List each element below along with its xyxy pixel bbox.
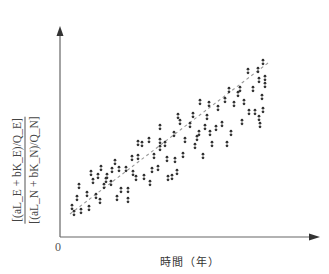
data-point xyxy=(111,170,114,173)
data-point xyxy=(127,197,130,200)
data-point xyxy=(131,155,134,158)
data-point xyxy=(149,180,152,183)
data-point xyxy=(125,169,128,172)
data-point xyxy=(159,145,162,148)
data-point xyxy=(116,195,119,198)
data-point xyxy=(192,115,195,118)
data-point xyxy=(114,159,117,162)
x-axis-arrow-icon xyxy=(309,234,320,241)
data-point xyxy=(164,141,167,144)
data-point xyxy=(97,176,100,179)
data-point xyxy=(159,138,162,141)
data-point xyxy=(148,140,151,143)
data-point xyxy=(259,122,262,125)
data-point xyxy=(204,124,207,127)
y-axis-label: [(aL_E + bK_E)/Q_E] [(aL_N + bK_N)/Q_N] xyxy=(0,90,50,250)
data-point xyxy=(211,141,214,144)
data-point xyxy=(230,133,233,136)
data-point xyxy=(206,117,209,120)
data-point xyxy=(241,122,244,125)
data-point xyxy=(208,101,211,104)
data-point xyxy=(233,104,236,107)
data-point xyxy=(71,204,74,207)
data-point xyxy=(243,102,246,105)
data-point xyxy=(204,127,207,130)
data-point xyxy=(118,169,121,172)
data-point xyxy=(248,109,251,112)
data-point xyxy=(215,128,218,131)
data-point xyxy=(137,143,140,146)
data-point xyxy=(76,195,79,198)
data-point xyxy=(224,97,227,100)
data-point xyxy=(258,115,261,118)
data-point xyxy=(159,124,162,127)
data-point xyxy=(248,112,251,115)
data-point xyxy=(114,162,117,165)
data-point xyxy=(239,89,242,92)
data-point xyxy=(258,118,261,121)
y-label-numerator: [(aL_E + bK_E)/Q_E] xyxy=(11,114,25,225)
data-point xyxy=(199,99,202,102)
data-point xyxy=(254,112,257,115)
data-point xyxy=(228,90,231,93)
data-point xyxy=(97,173,100,176)
data-point xyxy=(151,167,154,170)
data-point xyxy=(264,75,267,78)
data-point xyxy=(230,130,233,133)
data-point xyxy=(209,133,212,136)
data-point xyxy=(202,153,205,156)
data-point xyxy=(241,119,244,122)
y-axis-arrow-icon xyxy=(57,26,64,36)
data-point xyxy=(184,140,187,143)
data-point xyxy=(192,112,195,115)
data-point xyxy=(182,152,185,155)
data-point xyxy=(258,77,261,80)
data-point xyxy=(127,190,130,193)
x-axis xyxy=(60,234,320,241)
data-point xyxy=(226,141,229,144)
data-point xyxy=(259,125,262,128)
data-point xyxy=(159,127,162,130)
data-point xyxy=(71,207,74,210)
data-point xyxy=(143,177,146,180)
data-point xyxy=(217,108,220,111)
data-point xyxy=(173,134,176,137)
data-point xyxy=(262,62,265,65)
data-point xyxy=(120,190,123,193)
data-point xyxy=(164,144,167,147)
data-point xyxy=(118,166,121,169)
data-point xyxy=(233,101,236,104)
data-point xyxy=(90,170,93,173)
data-point xyxy=(137,154,140,157)
data-point xyxy=(211,144,214,147)
data-point xyxy=(262,107,265,110)
data-point xyxy=(209,130,212,133)
data-point xyxy=(176,172,179,175)
data-point xyxy=(135,175,138,178)
data-point xyxy=(132,173,135,176)
data-point xyxy=(252,86,255,89)
data-point xyxy=(264,82,267,85)
data-point xyxy=(252,89,255,92)
data-point xyxy=(221,121,224,124)
data-point xyxy=(182,155,185,158)
data-point xyxy=(80,208,83,211)
data-point xyxy=(88,208,91,211)
data-point xyxy=(226,144,229,147)
data-point xyxy=(261,94,264,97)
data-point xyxy=(239,86,242,89)
data-points xyxy=(71,59,267,216)
data-point xyxy=(90,173,93,176)
y-label-denominator: [(aL_N + bK_N)/Q_N] xyxy=(26,114,40,225)
data-point xyxy=(78,183,81,186)
data-point xyxy=(127,187,130,190)
data-point xyxy=(176,169,179,172)
data-point xyxy=(202,156,205,159)
data-point xyxy=(264,85,267,88)
data-point xyxy=(103,183,106,186)
data-point xyxy=(153,153,156,156)
data-point xyxy=(166,159,169,162)
data-point xyxy=(198,130,201,133)
data-point xyxy=(167,175,170,178)
data-point xyxy=(95,193,98,196)
